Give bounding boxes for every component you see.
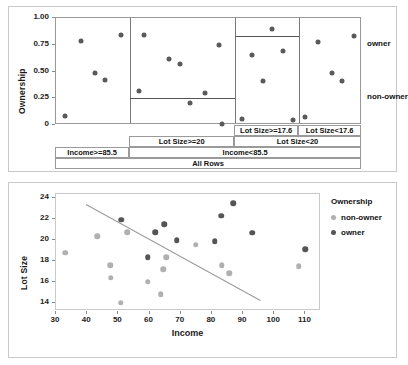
scatter-data-point xyxy=(249,230,255,236)
partition-data-point xyxy=(202,90,207,95)
partition-data-point xyxy=(141,33,146,38)
partition-label-box[interactable]: Lot Size>=17.6 xyxy=(234,125,298,136)
scatter-data-point xyxy=(218,213,224,219)
scatter-data-point xyxy=(94,234,100,240)
scatter-fit-line xyxy=(85,205,260,302)
partition-data-point xyxy=(188,100,193,105)
partition-label-box[interactable]: Income>=85.5 xyxy=(55,147,129,158)
scatter-x-tick-label: 40 xyxy=(82,315,91,324)
partition-split-divider xyxy=(235,18,236,123)
partition-data-point xyxy=(62,114,67,119)
partition-plot-area xyxy=(55,17,361,124)
partition-label-box[interactable]: Lot Size<17.6 xyxy=(298,125,361,136)
scatter-chart-panel: Lot Size 141618202224 304050607080901001… xyxy=(8,182,397,358)
partition-y-tick-label: 0.75 xyxy=(9,39,49,48)
scatter-data-point xyxy=(193,242,199,248)
scatter-x-tick-mark xyxy=(117,311,118,314)
legend-entry-label: non-owner xyxy=(341,213,382,222)
scatter-x-tick-mark xyxy=(304,311,305,314)
scatter-x-tick-label: 30 xyxy=(51,315,60,324)
scatter-data-point xyxy=(152,229,158,235)
scatter-x-tick-label: 70 xyxy=(175,315,184,324)
scatter-data-point xyxy=(145,254,151,260)
partition-category-label: owner xyxy=(367,39,391,48)
scatter-x-tick-label: 90 xyxy=(238,315,247,324)
scatter-x-tick-label: 100 xyxy=(267,315,280,324)
partition-data-point xyxy=(220,122,225,127)
partition-label-box[interactable]: Lot Size<20 xyxy=(234,136,361,147)
scatter-data-point xyxy=(158,292,164,298)
partition-y-tick-label: 0.50 xyxy=(9,66,49,75)
partition-y-tick-mark xyxy=(52,124,55,125)
scatter-data-point xyxy=(296,263,302,269)
scatter-data-point xyxy=(212,238,218,244)
partition-mean-line xyxy=(235,36,299,37)
scatter-data-point xyxy=(118,300,124,306)
scatter-data-point xyxy=(219,262,225,268)
partition-category-label: non-owner xyxy=(367,92,408,101)
partition-data-point xyxy=(329,71,334,76)
partition-y-tick-label: 0.25 xyxy=(9,92,49,101)
scatter-data-point xyxy=(118,217,124,223)
scatter-data-point xyxy=(174,238,180,244)
legend-swatch-icon xyxy=(331,230,336,235)
partition-data-point xyxy=(339,78,344,83)
partition-data-point xyxy=(316,40,321,45)
scatter-x-tick-label: 110 xyxy=(298,315,311,324)
scatter-data-point xyxy=(230,201,236,207)
scatter-plot-area xyxy=(55,193,320,310)
partition-data-point xyxy=(261,79,266,84)
partition-y-tick-label: 1.00 xyxy=(9,12,49,21)
scatter-x-tick-mark xyxy=(55,311,56,314)
scatter-data-point xyxy=(164,254,170,260)
scatter-y-tick-label: 18 xyxy=(9,255,49,264)
scatter-x-axis-title: Income xyxy=(55,328,320,338)
legend-entries: non-ownerowner xyxy=(331,213,382,237)
legend-entry[interactable]: non-owner xyxy=(331,213,382,222)
legend-entry-label: owner xyxy=(341,228,365,237)
legend-entry[interactable]: owner xyxy=(331,228,382,237)
partition-data-point xyxy=(136,89,141,94)
partition-data-point xyxy=(240,116,245,121)
scatter-data-point xyxy=(108,275,114,281)
legend-swatch-icon xyxy=(331,215,336,220)
scatter-data-point xyxy=(124,229,130,235)
scatter-x-tick-mark xyxy=(149,311,150,314)
legend-title: Ownership xyxy=(331,197,382,206)
partition-data-point xyxy=(352,34,357,39)
scatter-data-point xyxy=(63,250,69,256)
scatter-y-tick-label: 24 xyxy=(9,192,49,201)
partition-data-point xyxy=(92,70,97,75)
scatter-x-tick-label: 60 xyxy=(144,315,153,324)
partition-split-divider xyxy=(130,18,131,123)
partition-data-point xyxy=(167,57,172,62)
scatter-y-tick-label: 16 xyxy=(9,276,49,285)
scatter-y-tick-label: 22 xyxy=(9,213,49,222)
partition-data-point xyxy=(302,114,307,119)
scatter-data-point xyxy=(145,279,151,285)
scatter-legend: Ownership non-ownerowner xyxy=(331,197,382,243)
scatter-x-tick-mark xyxy=(211,311,212,314)
partition-label-box[interactable]: Lot Size>=20 xyxy=(129,136,234,147)
partition-data-point xyxy=(177,62,182,67)
scatter-data-point xyxy=(227,271,233,277)
partition-label-box[interactable]: All Rows xyxy=(55,158,361,169)
scatter-x-tick-mark xyxy=(273,311,274,314)
scatter-x-tick-label: 80 xyxy=(206,315,215,324)
scatter-data-point xyxy=(160,266,166,272)
scatter-data-point xyxy=(107,262,113,268)
partition-data-point xyxy=(290,117,295,122)
partition-data-point xyxy=(250,52,255,57)
scatter-y-tick-label: 14 xyxy=(9,297,49,306)
partition-data-point xyxy=(270,26,275,31)
partition-y-tick-label: 0 xyxy=(9,119,49,128)
partition-chart-panel: Ownership 00.250.500.751.00 ownernon-own… xyxy=(8,6,397,172)
partition-data-point xyxy=(103,77,108,82)
partition-data-point xyxy=(281,48,286,53)
scatter-y-tick-label: 20 xyxy=(9,234,49,243)
scatter-x-tick-mark xyxy=(242,311,243,314)
partition-label-box[interactable]: Income<85.5 xyxy=(129,147,361,158)
partition-split-divider xyxy=(299,18,300,123)
scatter-x-tick-label: 50 xyxy=(113,315,122,324)
partition-data-point xyxy=(78,39,83,44)
